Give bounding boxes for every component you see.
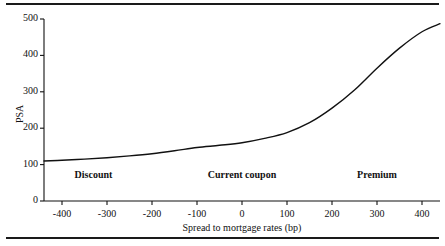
region-label: Discount (75, 169, 113, 180)
y-axis-ticks (40, 19, 44, 201)
x-tick-label: -400 (42, 208, 82, 219)
x-tick-label: 400 (402, 208, 442, 219)
y-tick-label: 400 (8, 48, 38, 59)
x-tick-label: 100 (267, 208, 307, 219)
x-axis-title: Spread to mortgage rates (bp) (142, 222, 342, 233)
x-tick-label: -200 (132, 208, 172, 219)
y-tick-label: 500 (8, 12, 38, 23)
y-tick-label: 300 (8, 85, 38, 96)
region-label: Current coupon (208, 169, 276, 180)
y-tick-label: 100 (8, 158, 38, 169)
x-tick-label: 0 (222, 208, 262, 219)
x-axis-ticks (62, 201, 422, 205)
x-tick-label: 300 (357, 208, 397, 219)
y-axis-title: PSA (14, 105, 25, 123)
y-tick-label: 0 (8, 194, 38, 205)
x-tick-label: 200 (312, 208, 352, 219)
region-label: Premium (357, 169, 397, 180)
x-tick-label: -100 (177, 208, 217, 219)
psa-curve (44, 24, 440, 161)
x-tick-label: -300 (87, 208, 127, 219)
chart-figure: 0100200300400500 -400-300-200-1000100200… (0, 0, 445, 246)
